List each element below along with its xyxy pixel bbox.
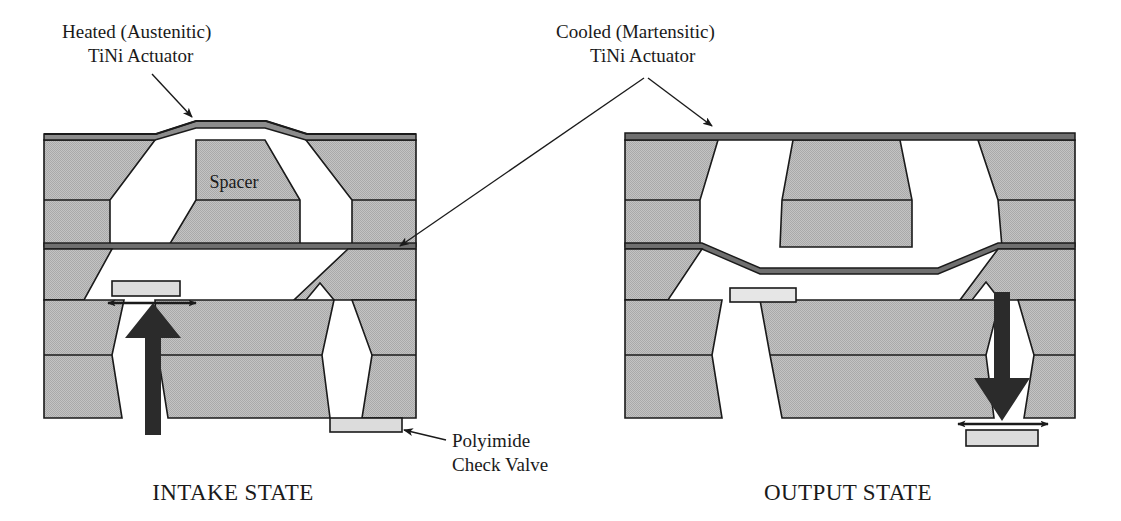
heated-tini-membrane bbox=[44, 121, 416, 140]
chamber-right-wall bbox=[294, 249, 416, 300]
heated-callout-line2: TiNi Actuator bbox=[88, 45, 194, 66]
center-spacer-block bbox=[780, 140, 912, 247]
lower-right-block bbox=[352, 300, 416, 418]
output-upper-body bbox=[625, 140, 1075, 247]
upper-right-wall bbox=[978, 140, 1075, 247]
outlet-check-valve-open bbox=[958, 424, 1048, 446]
lower-center-block bbox=[155, 300, 334, 418]
lower-right-block bbox=[1018, 300, 1075, 418]
polyimide-callout-line2: Check Valve bbox=[452, 454, 548, 475]
lower-left-block bbox=[44, 300, 124, 418]
cooled-callout-line1: Cooled (Martensitic) bbox=[556, 21, 715, 43]
intake-lower-body bbox=[44, 300, 416, 418]
figure-canvas: Heated (Austenitic) TiNi Actuator Spacer… bbox=[0, 0, 1121, 521]
upper-right-wall bbox=[306, 140, 416, 247]
cooled-callout-leader-right bbox=[648, 78, 712, 126]
polyimide-callout-leader bbox=[404, 430, 446, 440]
inlet-valve-flap bbox=[112, 281, 180, 296]
chamber-left-wall bbox=[44, 249, 112, 300]
heated-callout-leader bbox=[152, 74, 192, 117]
lower-center-block bbox=[760, 300, 1000, 418]
lower-left-block bbox=[625, 300, 722, 418]
chamber-left-wall bbox=[625, 249, 702, 300]
intake-chamber-layer bbox=[44, 249, 416, 300]
heated-callout-line1: Heated (Austenitic) bbox=[62, 21, 211, 43]
micropump-cross-section-figure: Heated (Austenitic) TiNi Actuator Spacer… bbox=[0, 0, 1121, 521]
center-spacer-block bbox=[168, 140, 300, 247]
inlet-check-valve-closed bbox=[730, 288, 796, 302]
intake-state-label: INTAKE STATE bbox=[152, 480, 313, 505]
panel-intake: Heated (Austenitic) TiNi Actuator Spacer… bbox=[44, 21, 416, 505]
spacer-label: Spacer bbox=[210, 172, 259, 192]
upper-left-wall bbox=[625, 140, 718, 247]
cooled-callout-line2: TiNi Actuator bbox=[590, 45, 696, 66]
intake-upper-body bbox=[44, 140, 416, 247]
outlet-valve-flap bbox=[966, 430, 1038, 446]
outlet-check-valve-closed bbox=[330, 418, 402, 432]
cooled-callout-leader-left bbox=[400, 78, 644, 246]
top-membrane-strip bbox=[44, 121, 416, 140]
cooled-tini-membrane-top bbox=[625, 133, 1075, 140]
lower-membrane-flat bbox=[44, 243, 416, 249]
output-state-label: OUTPUT STATE bbox=[764, 480, 932, 505]
upper-left-wall bbox=[44, 140, 155, 247]
polyimide-callout-line1: Polyimide bbox=[452, 430, 530, 451]
polyimide-callout: Polyimide Check Valve bbox=[404, 430, 548, 475]
